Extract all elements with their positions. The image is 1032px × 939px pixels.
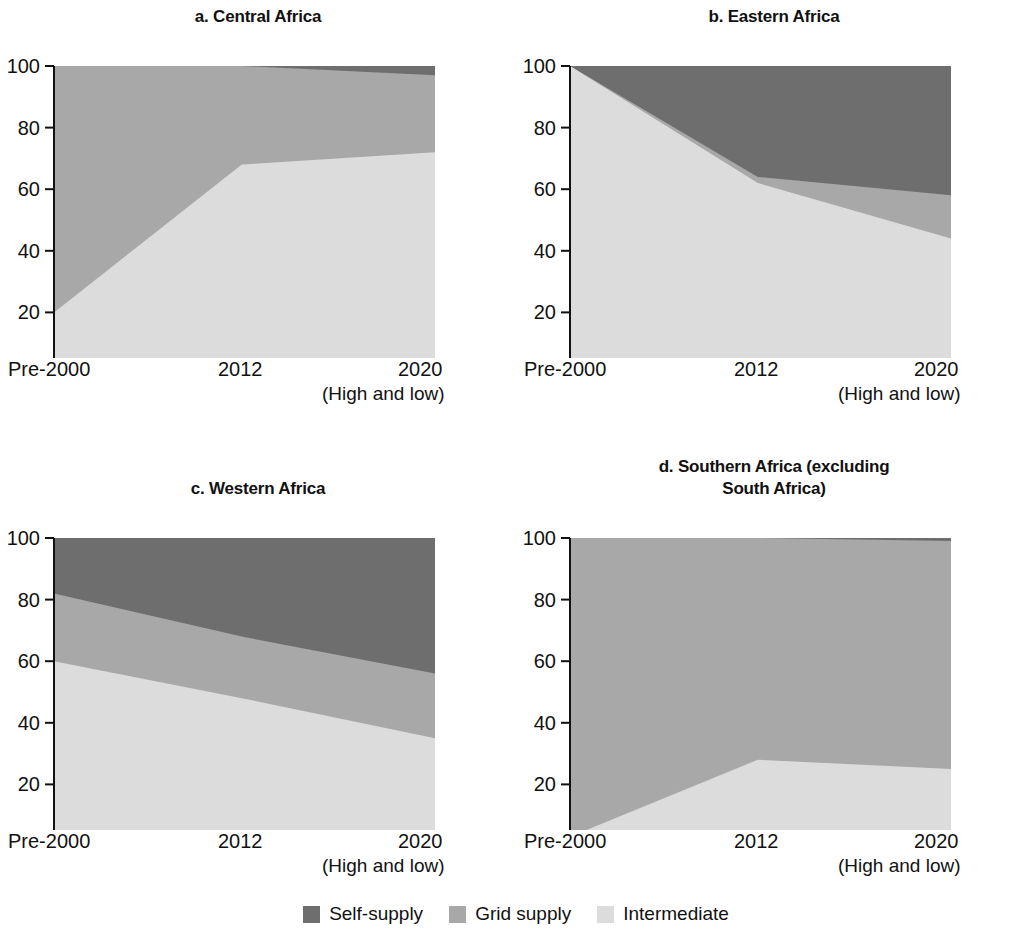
panel-a: a. Central Africa 020406080100 Pre-2000 … [0,6,516,406]
y-tick-label: 40 [534,240,556,262]
y-tick-label: 80 [18,589,40,611]
y-tick-label: 80 [18,117,40,139]
y-tick-label: 60 [18,650,40,672]
panel-b: b. Eastern Africa 020406080100 Pre-2000 … [516,6,1032,406]
panel-b-xtick-2012: 2012 [734,358,779,381]
legend-label-self-supply: Self-supply [329,903,423,925]
panel-d-xaxis-labels: Pre-2000 2012 2020 (High and low) [516,830,1032,878]
panel-c-title: c. Western Africa [0,478,516,500]
panel-c: c. Western Africa 020406080100 Pre-2000 … [0,478,516,878]
legend-item-intermediate: Intermediate [597,903,729,925]
panel-a-xsublabel: (High and low) [322,383,445,405]
y-tick-label: 20 [534,773,556,795]
panel-c-plot: 020406080100 [0,500,516,830]
panel-a-xaxis-labels: Pre-2000 2012 2020 (High and low) [0,358,516,406]
panel-d: d. Southern Africa (excluding South Afri… [516,456,1032,878]
y-tick-label: 100 [7,527,40,549]
panel-b-xtick-2020: 2020 [914,358,959,381]
panel-d-xtick-2012: 2012 [734,830,779,853]
figure-root: a. Central Africa 020406080100 Pre-2000 … [0,0,1032,939]
panel-a-xtick-pre2000: Pre-2000 [8,358,90,381]
panel-c-svg: 020406080100 [0,500,516,830]
y-tick-label: 60 [534,650,556,672]
y-tick-label: 100 [523,527,556,549]
y-tick-label: 60 [534,178,556,200]
panel-c-xsublabel: (High and low) [322,855,445,877]
panel-c-xaxis-labels: Pre-2000 2012 2020 (High and low) [0,830,516,878]
y-tick-label: 80 [534,589,556,611]
panel-b-svg: 020406080100 [516,28,1032,358]
y-tick-label: 40 [18,712,40,734]
legend-item-grid-supply: Grid supply [449,903,571,925]
y-tick-label: 40 [18,240,40,262]
panel-a-plot: 020406080100 [0,28,516,358]
panel-a-xtick-2012: 2012 [218,358,263,381]
y-tick-label: 20 [18,773,40,795]
panel-b-xtick-pre2000: Pre-2000 [524,358,606,381]
chart-legend: Self-supply Grid supply Intermediate [0,903,1032,925]
panel-d-title-line1: d. Southern Africa (excluding [516,456,1032,478]
y-tick-label: 20 [534,301,556,323]
panel-d-title-line2: South Africa) [516,478,1032,500]
y-tick-label: 40 [534,712,556,734]
panel-b-title: b. Eastern Africa [516,6,1032,28]
y-tick-label: 80 [534,117,556,139]
panel-d-plot: 020406080100 [516,500,1032,830]
panel-b-xsublabel: (High and low) [838,383,961,405]
y-tick-label: 100 [7,55,40,77]
panel-d-svg: 020406080100 [516,500,1032,830]
legend-swatch-self-supply [303,906,320,923]
panel-d-xtick-2020: 2020 [914,830,959,853]
legend-swatch-intermediate [597,906,614,923]
panel-c-xtick-2020: 2020 [398,830,443,853]
legend-label-grid-supply: Grid supply [475,903,571,925]
y-tick-label: 100 [523,55,556,77]
panel-b-plot: 020406080100 [516,28,1032,358]
legend-item-self-supply: Self-supply [303,903,423,925]
y-tick-label: 60 [18,178,40,200]
panel-a-title: a. Central Africa [0,6,516,28]
panel-a-xtick-2020: 2020 [398,358,443,381]
legend-swatch-grid-supply [449,906,466,923]
y-tick-label: 20 [18,301,40,323]
panel-d-title: d. Southern Africa (excluding South Afri… [516,456,1032,500]
panel-c-xtick-2012: 2012 [218,830,263,853]
panel-d-xtick-pre2000: Pre-2000 [524,830,606,853]
panel-a-svg: 020406080100 [0,28,516,358]
panel-b-xaxis-labels: Pre-2000 2012 2020 (High and low) [516,358,1032,406]
legend-label-intermediate: Intermediate [623,903,729,925]
panel-d-xsublabel: (High and low) [838,855,961,877]
panel-c-xtick-pre2000: Pre-2000 [8,830,90,853]
